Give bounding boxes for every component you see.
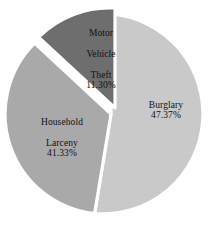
pie-chart-canvas: [0, 0, 223, 225]
pie-chart-figure: Motor Vehicle Theft 11.30% Burglary 47.3…: [0, 0, 223, 225]
